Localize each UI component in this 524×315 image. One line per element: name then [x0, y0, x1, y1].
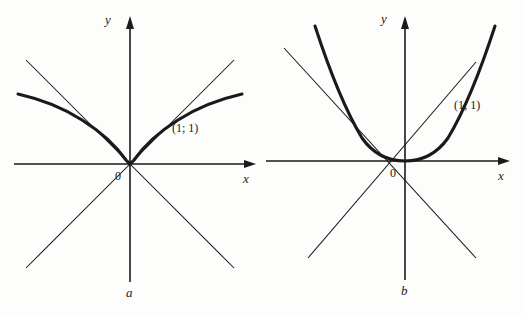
point-label-1-1-b: (1; 1)	[454, 99, 480, 111]
y-axis-a	[126, 16, 134, 282]
x-axis-a	[14, 160, 256, 168]
x-axis-label-b: x	[498, 169, 504, 182]
origin-label-b: 0	[390, 167, 396, 179]
y-axis-label-b: y	[381, 12, 387, 25]
panel-a: y x 0 (1; 1) a	[0, 0, 262, 315]
origin-label-a: 0	[115, 170, 121, 182]
x-axis-label-a: x	[243, 172, 249, 185]
panel-caption-a: a	[126, 286, 133, 299]
point-label-1-1-a: (1; 1)	[172, 122, 198, 134]
figure-container: y x 0 (1; 1) a y x 0 (1; 1)	[0, 0, 524, 315]
y-axis-label-a: y	[105, 13, 111, 26]
panel-a-plot	[0, 0, 262, 315]
panel-caption-b: b	[401, 284, 408, 297]
panel-b: y x 0 (1; 1) b	[262, 0, 524, 315]
panel-b-plot	[262, 0, 524, 315]
